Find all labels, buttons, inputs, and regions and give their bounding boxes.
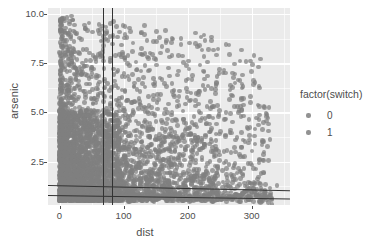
data-point: [82, 164, 87, 169]
data-point: [84, 173, 89, 178]
data-point: [173, 145, 178, 150]
data-point: [162, 171, 167, 176]
data-point: [215, 103, 220, 108]
data-point: [235, 104, 240, 109]
data-point: [169, 113, 174, 118]
data-point: [83, 95, 88, 100]
data-point: [170, 118, 175, 123]
data-point: [115, 153, 120, 158]
data-point: [264, 114, 269, 119]
data-point: [59, 99, 64, 104]
data-point: [203, 134, 208, 139]
data-point: [182, 158, 187, 163]
data-point: [58, 28, 63, 33]
data-point: [130, 169, 135, 174]
data-point: [58, 172, 63, 177]
data-point: [97, 80, 102, 85]
data-point: [71, 144, 76, 149]
data-point: [228, 111, 233, 116]
data-point: [172, 88, 177, 93]
legend-dot-icon: [306, 130, 310, 134]
data-point: [224, 172, 229, 177]
data-point: [203, 116, 208, 121]
data-point: [239, 48, 244, 53]
data-point: [116, 140, 121, 145]
legend-entries: 01: [300, 107, 384, 141]
data-point: [160, 44, 165, 49]
data-point: [79, 67, 84, 72]
data-point: [240, 86, 245, 91]
data-point: [266, 122, 271, 127]
data-point: [238, 169, 243, 174]
data-point: [126, 145, 131, 150]
data-point: [268, 137, 273, 142]
gridline-vertical: [252, 8, 253, 205]
data-point: [238, 176, 243, 181]
data-point: [239, 145, 244, 150]
legend-item-1[interactable]: 1: [300, 124, 384, 141]
data-point: [198, 111, 203, 116]
data-point: [266, 200, 271, 205]
data-point: [190, 77, 195, 82]
data-point: [73, 77, 78, 82]
data-point: [210, 104, 215, 109]
data-point: [77, 135, 82, 140]
data-point: [116, 165, 121, 170]
data-point: [66, 81, 71, 86]
x-tick-label: 100: [104, 210, 144, 221]
data-point: [58, 23, 63, 28]
data-point: [246, 126, 251, 131]
data-point: [170, 53, 175, 58]
data-point: [115, 70, 120, 75]
data-point: [202, 176, 207, 181]
data-point: [181, 117, 186, 122]
data-point: [187, 41, 192, 46]
data-point: [120, 52, 125, 57]
data-point: [164, 121, 169, 126]
data-point: [58, 51, 63, 56]
data-point: [87, 90, 92, 95]
data-point: [78, 109, 83, 114]
data-point: [158, 51, 163, 56]
data-point: [118, 181, 123, 186]
data-point: [193, 31, 198, 36]
data-point: [75, 31, 80, 36]
data-point: [227, 97, 232, 102]
legend-item-0[interactable]: 0: [300, 107, 384, 124]
data-point: [184, 126, 189, 131]
x-tick-mark: [252, 206, 253, 209]
data-point: [265, 144, 270, 149]
data-point: [136, 121, 141, 126]
legend-key-icon: [300, 107, 317, 124]
data-point: [148, 135, 153, 140]
data-point: [76, 97, 81, 102]
data-point: [213, 153, 218, 158]
y-axis-title: arsenic: [8, 61, 20, 141]
data-point: [136, 77, 141, 82]
legend-key-icon: [300, 124, 317, 141]
data-point: [195, 171, 200, 176]
data-point: [94, 197, 99, 202]
data-point: [172, 94, 177, 99]
data-point: [145, 159, 150, 164]
data-point: [180, 54, 185, 59]
x-tick-mark: [60, 206, 61, 209]
data-point: [66, 168, 71, 173]
data-point: [134, 68, 139, 73]
data-point: [261, 152, 266, 157]
data-point: [224, 42, 229, 47]
gridline-horizontal: [48, 14, 290, 15]
data-point: [146, 56, 151, 61]
data-point: [84, 82, 89, 87]
data-point: [94, 86, 99, 91]
data-point: [230, 120, 235, 125]
data-point: [174, 134, 179, 139]
data-point: [262, 171, 267, 176]
data-point: [216, 114, 221, 119]
data-point: [130, 112, 135, 117]
data-point: [124, 166, 129, 171]
data-point: [157, 179, 162, 184]
data-point: [233, 192, 238, 197]
data-point: [62, 67, 67, 72]
data-point: [181, 60, 186, 65]
